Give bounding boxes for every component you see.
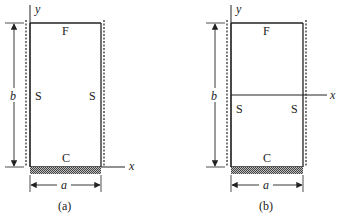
height-label: b xyxy=(10,89,16,103)
edge-label-right: S xyxy=(89,89,96,103)
y-axis-label: y xyxy=(235,2,242,16)
width-label: a xyxy=(263,178,269,192)
edge-label-top: F xyxy=(62,24,69,38)
edge-label-bottom: C xyxy=(263,151,271,165)
clamped-edge-hatch xyxy=(30,167,101,174)
plate-diagrams: y x F S S C b a (a) y xyxy=(0,0,339,214)
width-label: a xyxy=(61,178,67,192)
edge-label-left: S xyxy=(35,89,42,103)
edge-label-bottom: C xyxy=(62,151,70,165)
edge-label-left: S xyxy=(236,102,243,116)
figure-b: y x F S S C b a (b) xyxy=(206,2,336,213)
caption-b: (b) xyxy=(259,199,273,213)
clamped-edge-hatch xyxy=(231,167,303,174)
edge-label-right: S xyxy=(291,102,298,116)
height-label: b xyxy=(211,89,217,103)
caption-a: (a) xyxy=(58,199,71,213)
edge-label-top: F xyxy=(263,24,270,38)
figure-a: y x F S S C b a (a) xyxy=(5,2,135,213)
x-axis-label: x xyxy=(128,159,135,173)
y-axis-label: y xyxy=(34,2,41,16)
x-axis-label: x xyxy=(329,88,336,102)
